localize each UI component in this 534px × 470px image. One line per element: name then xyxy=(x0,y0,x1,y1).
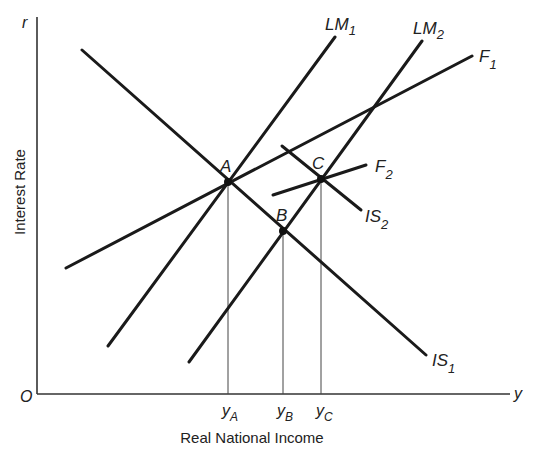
f1-curve xyxy=(66,56,472,268)
is2-label: IS2 xyxy=(365,207,389,232)
tick-ya: yA xyxy=(221,402,238,424)
x-axis-symbol: y xyxy=(513,385,523,402)
f1-label: F1 xyxy=(479,47,497,72)
point-b-marker xyxy=(279,227,287,235)
tick-yc: yC xyxy=(315,402,333,424)
point-a-marker xyxy=(224,178,232,186)
lm1-curve xyxy=(108,37,335,346)
origin-label: O xyxy=(20,388,32,405)
lm1-label: LM1 xyxy=(325,15,356,38)
lm2-curve xyxy=(189,41,422,362)
point-c-label: C xyxy=(312,154,325,173)
point-a-label: A xyxy=(219,157,231,176)
y-axis-symbol: r xyxy=(22,14,28,31)
lm2-label: LM2 xyxy=(413,19,445,42)
y-axis-title: Interest Rate xyxy=(11,149,28,235)
x-axis-title: Real National Income xyxy=(180,429,323,446)
tick-yb: yB xyxy=(276,402,293,424)
point-c-marker xyxy=(317,175,325,183)
point-b-label: B xyxy=(276,206,287,225)
f2-label: F2 xyxy=(375,157,393,182)
is1-label: IS1 xyxy=(432,351,455,376)
is-lm-diagram: r y O Real National Income Interest Rate… xyxy=(0,0,534,470)
